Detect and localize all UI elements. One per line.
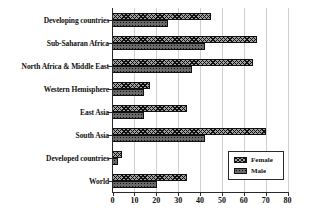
y-axis-tick — [108, 181, 112, 182]
legend-swatch-female — [234, 157, 247, 163]
bar-female — [113, 13, 211, 20]
bar-male — [113, 158, 118, 165]
legend-label-female: Female — [251, 156, 273, 164]
bar-group — [113, 54, 288, 77]
bar-male — [113, 43, 205, 50]
bar-female — [113, 105, 187, 112]
bar-female — [113, 36, 257, 43]
category-label: Developed countries — [46, 153, 109, 162]
chart: Female Male 01020304050607080Developing … — [0, 0, 309, 213]
bar-male — [113, 181, 157, 188]
category-label: World — [89, 176, 109, 185]
legend-entry-female: Female — [234, 156, 283, 164]
y-axis-tick — [108, 66, 112, 67]
bar-group — [113, 31, 288, 54]
bar-female — [113, 174, 187, 181]
bar-female — [113, 82, 150, 89]
bar-male — [113, 66, 192, 73]
bar-group — [113, 8, 288, 31]
bar-group — [113, 100, 288, 123]
category-label: Western Hemisphere — [44, 84, 109, 93]
bar-female — [113, 151, 122, 158]
x-tick-label: 30 — [174, 196, 182, 205]
category-label: Developing countries — [44, 15, 109, 24]
bar-group — [113, 123, 288, 146]
legend-label-male: Male — [251, 167, 266, 175]
legend-entry-male: Male — [234, 167, 283, 175]
legend: Female Male — [228, 151, 284, 180]
category-label: North Africa & Middle East — [22, 61, 109, 70]
y-axis-tick — [108, 135, 112, 136]
x-tick-label: 0 — [111, 196, 115, 205]
bar-female — [113, 59, 253, 66]
x-tick-label: 70 — [262, 196, 270, 205]
x-tick-label: 20 — [152, 196, 160, 205]
bar-female — [113, 128, 266, 135]
bar-male — [113, 135, 205, 142]
y-axis-tick — [108, 43, 112, 44]
bar-male — [113, 20, 168, 27]
y-axis-tick — [108, 158, 112, 159]
category-label: East Asia — [80, 107, 109, 116]
x-tick-label: 50 — [218, 196, 226, 205]
category-label: Sub-Saharan Africa — [47, 38, 109, 47]
y-axis-tick — [108, 20, 112, 21]
y-axis-tick — [108, 112, 112, 113]
bar-male — [113, 112, 144, 119]
legend-swatch-male — [234, 168, 247, 174]
x-tick-label: 80 — [284, 196, 292, 205]
y-axis-tick — [108, 89, 112, 90]
x-tick-label: 40 — [196, 196, 204, 205]
bar-male — [113, 89, 144, 96]
x-tick-label: 60 — [240, 196, 248, 205]
x-tick-label: 10 — [130, 196, 138, 205]
bar-group — [113, 77, 288, 100]
category-label: South Asia — [76, 130, 109, 139]
